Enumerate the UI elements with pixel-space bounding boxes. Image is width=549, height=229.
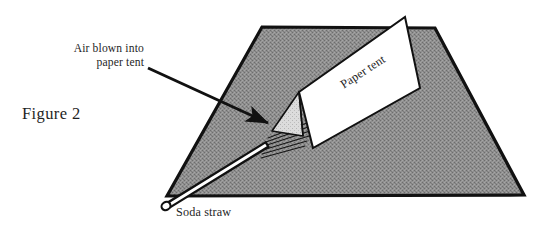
figure-container: Paper tent Air blown into paper tent Sod… xyxy=(0,0,549,229)
callout-label-line2: paper tent xyxy=(96,56,144,69)
callout-label-line1: Air blown into xyxy=(74,42,144,55)
soda-straw-label: Soda straw xyxy=(176,205,231,219)
figure-caption: Figure 2 xyxy=(22,104,81,123)
figure-illustration: Paper tent Air blown into paper tent Sod… xyxy=(0,0,549,229)
